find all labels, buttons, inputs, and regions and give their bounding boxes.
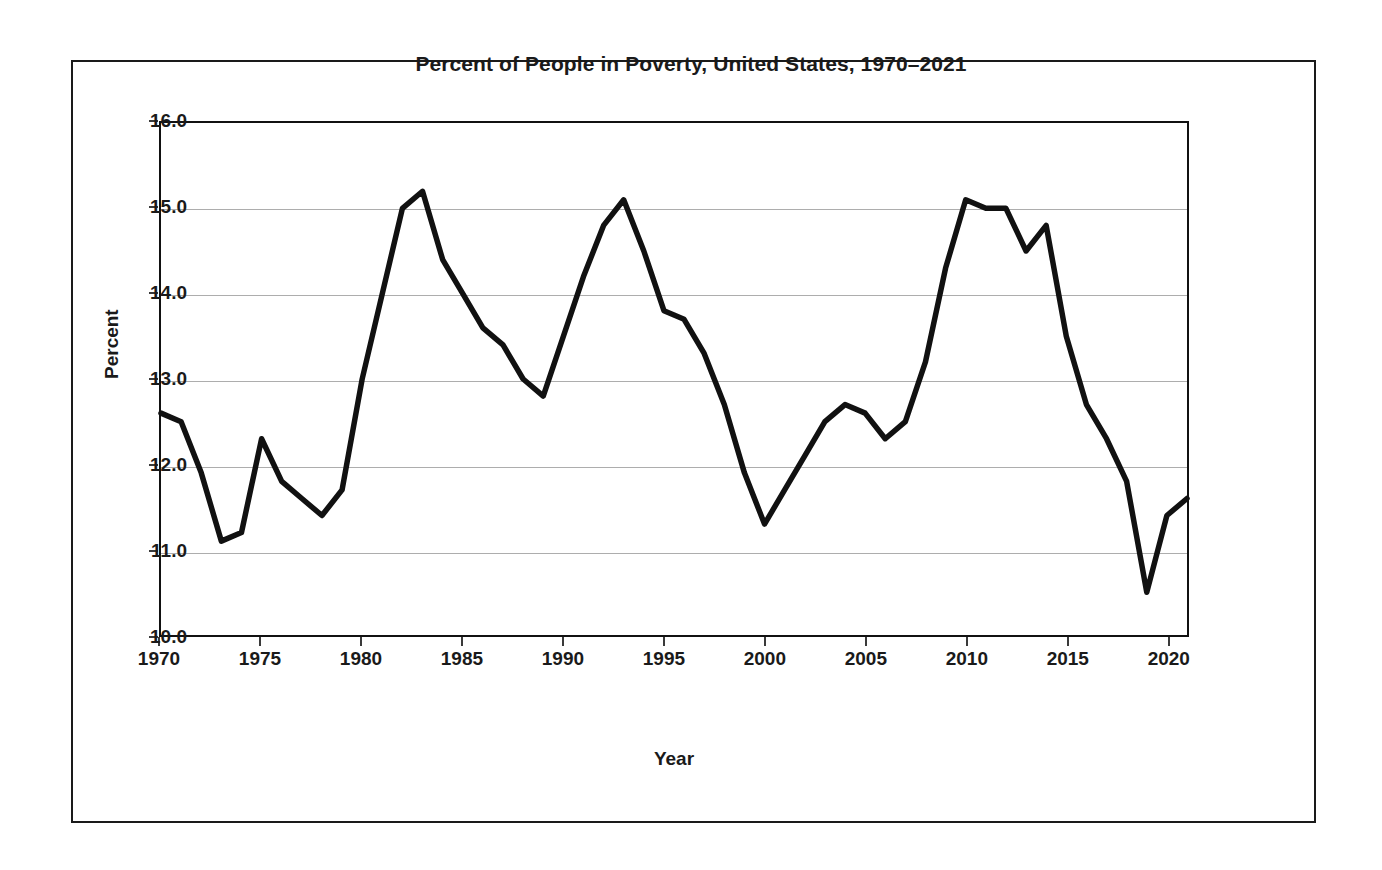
y-axis-tick-label: 15.0 — [67, 196, 187, 218]
y-axis-tick-label: 13.0 — [67, 368, 187, 390]
y-axis-tick-label: 16.0 — [67, 110, 187, 132]
plot-inner — [161, 123, 1187, 635]
y-axis-tick-label: 12.0 — [67, 454, 187, 476]
poverty-rate-line — [161, 191, 1187, 592]
x-axis-tick-mark — [1168, 637, 1170, 646]
x-axis-tick-mark — [259, 637, 261, 646]
y-axis-tick-label: 11.0 — [67, 540, 187, 562]
chart-title: Percent of People in Poverty, United Sta… — [0, 52, 1382, 76]
x-axis-tick-mark — [865, 637, 867, 646]
y-axis-tick-label: 10.0 — [67, 626, 187, 648]
x-axis-tick-mark — [360, 637, 362, 646]
x-axis-tick-mark — [1067, 637, 1069, 646]
series-line-chart — [161, 123, 1187, 635]
x-axis-tick-mark — [663, 637, 665, 646]
plot-area — [159, 121, 1189, 637]
x-axis-tick-mark — [562, 637, 564, 646]
x-axis-tick-mark — [461, 637, 463, 646]
figure-root: Percent of People in Poverty, United Sta… — [0, 0, 1382, 870]
x-axis-tick-label: 2020 — [1109, 648, 1229, 670]
x-axis-title: Year — [159, 748, 1189, 770]
y-axis-tick-label: 14.0 — [67, 282, 187, 304]
x-axis-tick-mark — [764, 637, 766, 646]
x-axis-tick-mark — [966, 637, 968, 646]
